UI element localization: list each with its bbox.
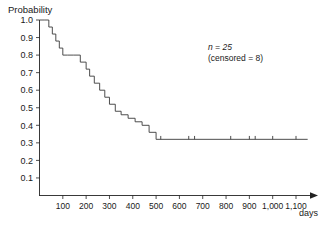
y-tick-label: 0.4 <box>20 121 33 131</box>
x-ticks-group: 1002003004005006007008009001,0001,100 <box>56 196 307 211</box>
y-tick-label: 0.2 <box>20 156 33 166</box>
x-tick-label: 500 <box>149 201 163 211</box>
y-tick-label: 0.6 <box>20 85 33 95</box>
y-tick-label: 0.8 <box>20 50 33 60</box>
x-axis-title: days <box>299 208 319 218</box>
x-tick-label: 700 <box>196 201 210 211</box>
x-tick-label: 900 <box>242 201 256 211</box>
y-tick-label: 1.0 <box>20 15 33 25</box>
x-tick-label: 300 <box>102 201 116 211</box>
censored-marks-group <box>161 136 296 139</box>
x-tick-label: 1,000 <box>262 201 284 211</box>
annotation-sample-size: n = 25 <box>208 42 232 52</box>
x-tick-label: 200 <box>79 201 93 211</box>
x-tick-label: 800 <box>219 201 233 211</box>
y-ticks-group: 0.10.20.30.40.50.60.70.80.91.0 <box>20 15 39 183</box>
kaplan-meier-figure: Probability 0.10.20.30.40.50.60.70.80.91… <box>0 0 326 228</box>
annotation-group: n = 25 (censored = 8) <box>208 42 263 63</box>
x-tick-label: 600 <box>172 201 186 211</box>
x-tick-label: 100 <box>56 201 70 211</box>
survival-curve-plot: Probability 0.10.20.30.40.50.60.70.80.91… <box>0 0 326 228</box>
y-tick-label: 0.7 <box>20 68 33 78</box>
x-tick-label: 400 <box>126 201 140 211</box>
y-tick-label: 0.1 <box>20 173 33 183</box>
annotation-censored-count: (censored = 8) <box>208 53 263 63</box>
survival-step-curve <box>40 20 308 139</box>
y-tick-label: 0.3 <box>20 138 33 148</box>
y-tick-label: 0.5 <box>20 103 33 113</box>
y-tick-label: 0.9 <box>20 33 33 43</box>
y-axis-title-group: Probability <box>8 4 53 15</box>
x-axis-arrow-icon <box>310 192 318 198</box>
y-axis-title: Probability <box>8 4 53 15</box>
